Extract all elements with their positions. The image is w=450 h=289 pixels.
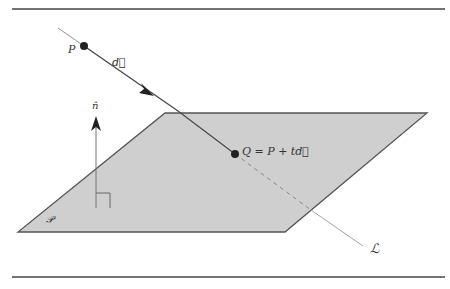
label-intersection: Q = P + td⃗: [242, 145, 309, 158]
line-plane-intersection-diagram: P d⃗ n̂ Q = P + td⃗ ℒ 𝒫: [0, 0, 450, 289]
point-q: [231, 150, 239, 158]
label-direction: d⃗: [112, 56, 126, 69]
label-p: P: [67, 43, 76, 56]
plane: [18, 113, 427, 232]
label-normal: n̂: [92, 100, 98, 111]
point-p: [80, 42, 88, 50]
line-l-lower: [311, 210, 363, 246]
label-line: ℒ: [370, 241, 380, 256]
